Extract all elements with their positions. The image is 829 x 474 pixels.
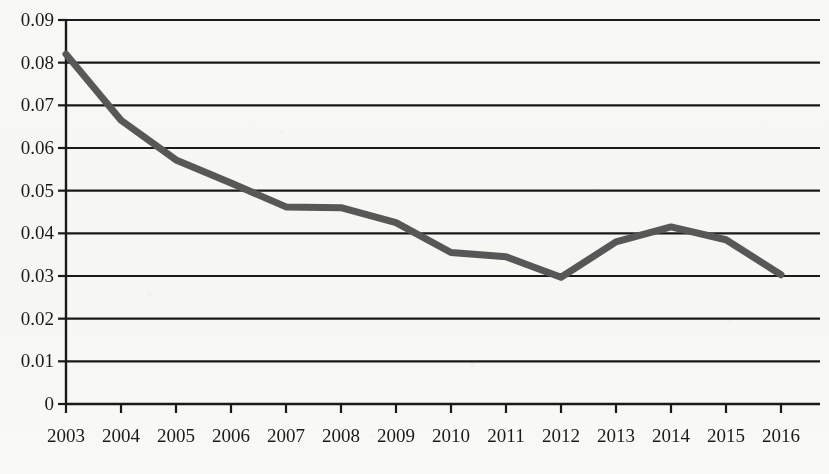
- y-axis-tick-label: 0.06: [21, 138, 54, 157]
- y-axis-tick-label: 0: [45, 394, 55, 413]
- x-axis-tick-label: 2008: [311, 426, 371, 445]
- x-axis-tick-label: 2007: [256, 426, 316, 445]
- y-axis-tick-label: 0.01: [21, 351, 54, 370]
- x-axis-tick-label: 2005: [146, 426, 206, 445]
- x-axis-tick-label: 2004: [91, 426, 151, 445]
- x-axis-tick-label: 2015: [696, 426, 756, 445]
- x-axis-tick-label: 2003: [36, 426, 96, 445]
- y-axis-tick-label: 0.04: [21, 223, 54, 242]
- data-series-line: [66, 54, 781, 277]
- y-axis-tick-label: 0.05: [21, 181, 54, 200]
- x-axis-tick-label: 2013: [586, 426, 646, 445]
- gridlines-group: [66, 20, 820, 404]
- x-axis-tick-label: 2014: [641, 426, 701, 445]
- x-axis-tick-label: 2016: [751, 426, 811, 445]
- x-tick-marks-group: [66, 404, 781, 413]
- x-axis-tick-label: 2009: [366, 426, 426, 445]
- x-axis-tick-label: 2010: [421, 426, 481, 445]
- x-axis-tick-label: 2011: [476, 426, 536, 445]
- data-line-group: [66, 54, 781, 277]
- y-axis-tick-label: 0.03: [21, 266, 54, 285]
- y-axis-tick-label: 0.07: [21, 95, 54, 114]
- chart-plot-area: [0, 0, 829, 474]
- chart-container: 0.090.080.070.060.050.040.030.020.010 20…: [0, 0, 829, 474]
- y-axis-tick-label: 0.08: [21, 53, 54, 72]
- x-axis-tick-label: 2006: [201, 426, 261, 445]
- x-axis-tick-label: 2012: [531, 426, 591, 445]
- y-axis-tick-label: 0.09: [21, 10, 54, 29]
- y-axis-tick-label: 0.02: [21, 309, 54, 328]
